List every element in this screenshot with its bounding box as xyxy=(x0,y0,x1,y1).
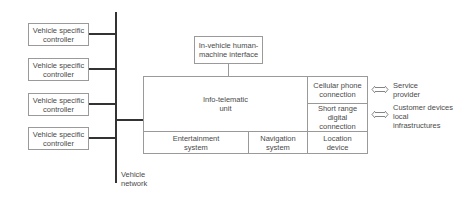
controller-box: Vehicle specific controller xyxy=(28,58,89,81)
hmi-box: In-vehicle human-machine interface xyxy=(194,36,263,64)
controller-connector xyxy=(89,33,116,35)
controller-label: Vehicle specific controller xyxy=(29,130,88,148)
vehicle-network-label: Vehicle network xyxy=(121,170,151,188)
controller-label: Vehicle specific controller xyxy=(29,26,88,44)
navigation-cell: Navigation system xyxy=(249,132,307,153)
controller-label: Vehicle specific controller xyxy=(29,96,88,114)
controller-connector xyxy=(89,103,116,105)
navigation-label: Navigation system xyxy=(256,134,301,152)
controller-box: Vehicle specific controller xyxy=(28,23,89,46)
vehicle-network-bus xyxy=(115,12,117,183)
location-label: Location device xyxy=(318,134,358,152)
bidirectional-arrow-icon xyxy=(371,85,389,94)
cellular-cell: Cellular phone connection xyxy=(308,77,367,103)
location-cell: Location device xyxy=(308,132,367,153)
controller-connector xyxy=(89,137,116,139)
controller-box: Vehicle specific controller xyxy=(28,93,89,116)
unit-main-label: Info-telematic unit xyxy=(201,95,251,113)
controller-box: Vehicle specific controller xyxy=(28,127,89,150)
unit-main-cell: Info-telematic unit xyxy=(144,77,307,131)
unit-connector xyxy=(116,119,143,121)
controller-connector xyxy=(89,68,116,70)
cellular-label: Cellular phone connection xyxy=(309,81,367,99)
short-range-label: Short range digital connection xyxy=(315,104,360,131)
entertainment-cell: Entertainment system xyxy=(144,132,248,153)
bidirectional-arrow-icon xyxy=(371,110,389,119)
hmi-connector xyxy=(228,64,229,76)
entertainment-label: Entertainment system xyxy=(166,134,226,152)
controller-label: Vehicle specific controller xyxy=(29,61,88,79)
hmi-label: In-vehicle human-machine interface xyxy=(195,41,262,59)
customer-devices-label: Customer devices local infrastructures xyxy=(393,103,455,130)
short-range-cell: Short range digital connection xyxy=(308,104,367,131)
service-provider-label: Service provider xyxy=(393,81,433,99)
